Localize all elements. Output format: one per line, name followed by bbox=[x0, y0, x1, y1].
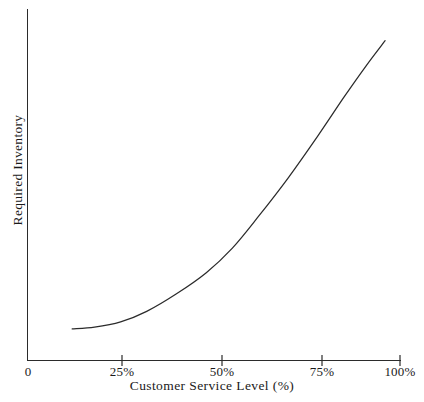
y-axis-title-wrapper: Required Inventory bbox=[8, 100, 28, 240]
chart-plot-area bbox=[0, 0, 424, 402]
chart-container: 0 25% 50% 75% 100% Customer Service Leve… bbox=[0, 0, 424, 402]
x-axis-title: Customer Service Level (%) bbox=[0, 378, 424, 394]
inventory-curve bbox=[72, 41, 385, 329]
y-axis-title: Required Inventory bbox=[10, 115, 25, 226]
